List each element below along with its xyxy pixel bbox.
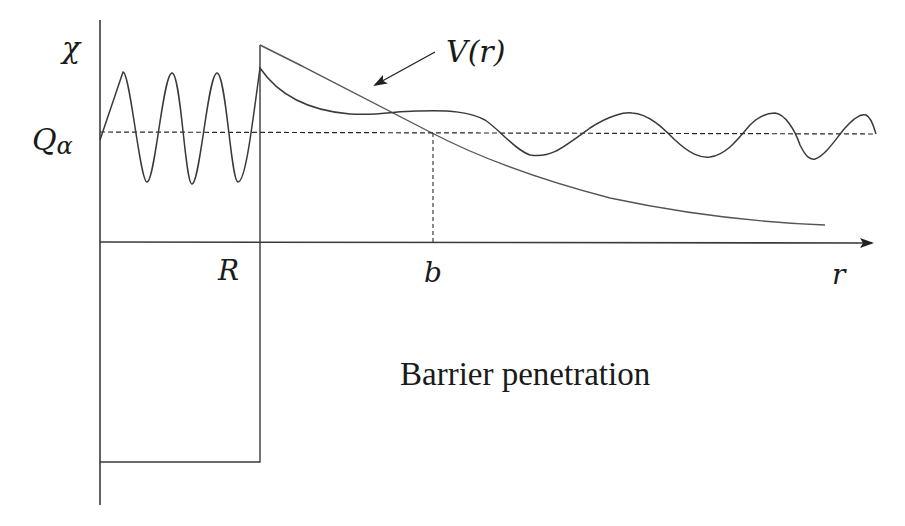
potential-curve	[260, 45, 825, 225]
barrier-penetration-diagram: χ Qα R b r V(r) Barrier penetration	[0, 0, 905, 526]
potential-label-arrow	[375, 52, 435, 85]
potential-label: V(r)	[446, 34, 505, 69]
r-axis	[100, 242, 872, 243]
wavefunction-curve	[100, 68, 876, 184]
y-axis-label: χ	[60, 30, 82, 65]
x-axis-label: r	[832, 258, 847, 291]
turning-point-label: b	[424, 256, 442, 289]
diagram-caption: Barrier penetration	[400, 356, 650, 392]
energy-level-line	[100, 132, 876, 134]
energy-level-label: Qα	[32, 122, 73, 160]
nuclear-radius-label: R	[217, 254, 239, 287]
energy-level-subscript: α	[57, 132, 73, 160]
energy-level-symbol: Q	[32, 122, 57, 157]
